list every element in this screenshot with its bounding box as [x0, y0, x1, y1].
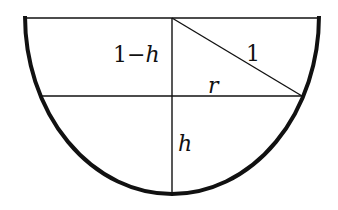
label-depth: h	[178, 131, 192, 156]
label-hypotenuse: 1	[246, 41, 260, 66]
hemisphere-diagram: 1−h 1 r h	[0, 0, 338, 210]
label-one-minus-h: 1−h	[113, 42, 160, 67]
hypotenuse-line	[172, 18, 302, 96]
label-radius: r	[208, 73, 220, 98]
